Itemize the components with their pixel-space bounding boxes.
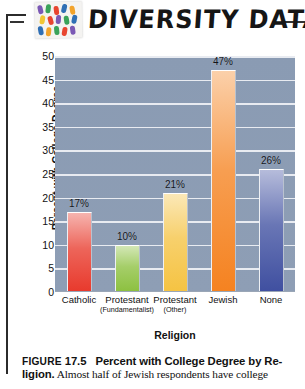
bar-none[interactable]	[259, 169, 284, 292]
y-tick-20: 20	[42, 192, 54, 204]
caption-title-cont: ligion.	[22, 368, 55, 380]
y-tick-40: 40	[42, 97, 54, 109]
y-tick-35: 35	[42, 121, 54, 133]
x-tick-4: None	[234, 294, 305, 305]
header-rule-left	[10, 21, 24, 23]
y-tick-50: 50	[42, 50, 54, 62]
caption-body: Almost half of Jewish respondents have c…	[55, 368, 268, 380]
bar-chart: Percent with College Degree 051015202530…	[10, 48, 300, 348]
page-frame-left-rule	[6, 14, 8, 374]
x-tick-sub-2: (Other)	[138, 305, 212, 314]
caption-figure-number: 17.5	[65, 355, 87, 367]
y-tick-5: 5	[48, 262, 54, 274]
x-axis-title: Religion	[55, 329, 295, 341]
bar-protestant-other[interactable]	[163, 193, 188, 292]
x-axis-tick-labels: CatholicProtestant(Fundamentalist)Protes…	[55, 294, 295, 326]
people-mosaic-logo	[35, 2, 83, 39]
caption-title: Percent with College Degree by Re-	[95, 355, 282, 367]
plot-area: 17%10%21%47%26%	[55, 56, 295, 292]
bar-value-label-1: 10%	[117, 231, 137, 242]
bar-catholic[interactable]	[67, 212, 92, 292]
bar-jewish[interactable]	[211, 70, 236, 292]
figure-page: DIVERSITY DATA Percent with College Degr…	[0, 0, 305, 389]
x-tick-main-4: None	[234, 294, 305, 305]
caption-figure-word: FIGURE	[22, 356, 62, 367]
y-tick-25: 25	[42, 168, 54, 180]
bar-value-label-3: 47%	[213, 56, 233, 67]
figure-caption: FIGURE 17.5 Percent with College Degree …	[22, 355, 294, 389]
y-tick-15: 15	[42, 215, 54, 227]
bar-value-label-4: 26%	[261, 155, 281, 166]
bar-protestant-fundamentalist[interactable]	[115, 245, 140, 292]
bar-value-label-0: 17%	[69, 198, 89, 209]
bar-series: 17%10%21%47%26%	[55, 56, 295, 292]
x-axis-baseline	[55, 291, 295, 292]
y-tick-30: 30	[42, 144, 54, 156]
y-tick-45: 45	[42, 74, 54, 86]
header-title: DIVERSITY DATA	[87, 1, 280, 39]
diversity-data-header: DIVERSITY DATA	[10, 0, 305, 46]
bar-value-label-2: 21%	[165, 179, 185, 190]
y-tick-10: 10	[42, 239, 54, 251]
